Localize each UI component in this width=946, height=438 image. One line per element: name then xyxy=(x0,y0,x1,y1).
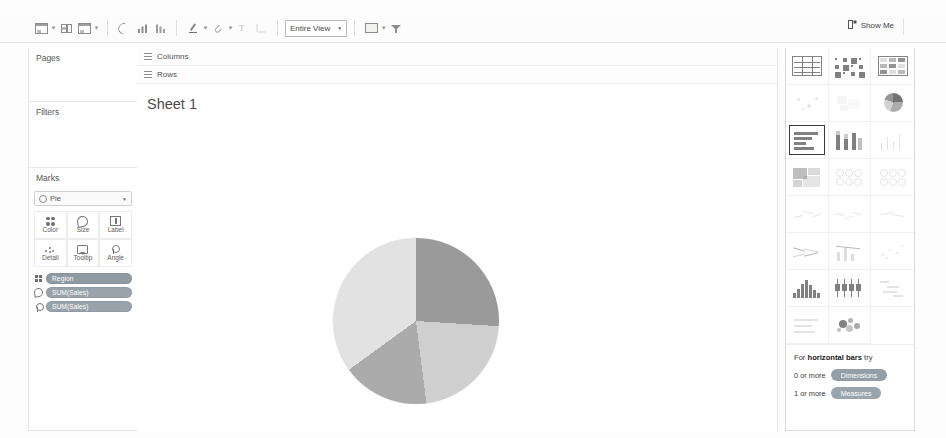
discrete-lines-icon xyxy=(833,203,865,225)
show-me-thumb-horizontal-bars[interactable] xyxy=(786,122,829,159)
symbol-map-icon xyxy=(791,92,823,114)
sort-descending-button[interactable] xyxy=(151,19,169,37)
show-me-thumb-discrete-lines[interactable] xyxy=(829,196,872,233)
show-me-label: Show Me xyxy=(861,21,894,30)
marks-tooltip-button[interactable]: Tooltip xyxy=(67,239,100,267)
show-me-thumb-histogram[interactable] xyxy=(786,270,829,307)
show-me-thumb-side-by-side-bars[interactable] xyxy=(871,122,914,159)
show-me-thumb-symbol-map[interactable] xyxy=(786,85,829,122)
filled-map-icon xyxy=(833,92,865,114)
box-and-whisker-icon xyxy=(833,277,865,299)
show-me-thumb-box-and-whisker[interactable] xyxy=(829,270,872,307)
marks-pill-row[interactable]: SUM(Sales) xyxy=(34,287,132,298)
marks-color-button[interactable]: Color xyxy=(34,211,67,239)
pill-sum-sales-size[interactable]: SUM(Sales) xyxy=(46,287,132,298)
pages-panel: Pages xyxy=(29,48,137,102)
show-me-thumb-dual-combination[interactable] xyxy=(829,233,872,270)
show-me-thumb-filled-map[interactable] xyxy=(829,85,872,122)
marks-size-button[interactable]: Size xyxy=(67,211,100,239)
new-worksheet-button[interactable] xyxy=(32,19,50,37)
marks-color-label: Color xyxy=(43,227,59,234)
marks-panel: Marks Pie ▼ Color Size xyxy=(29,168,137,318)
filters-panel: Filters xyxy=(29,102,137,168)
marks-pill-row[interactable]: Region xyxy=(34,273,132,284)
hint-prefix: For xyxy=(794,353,808,362)
show-mark-labels-button[interactable]: T xyxy=(234,19,252,37)
toolbar-group-edit xyxy=(111,17,173,39)
show-me-thumb-pie-chart[interactable] xyxy=(871,85,914,122)
show-me-thumb-treemap[interactable] xyxy=(786,159,829,196)
highlight-caret-icon[interactable]: ▼ xyxy=(202,25,209,31)
circle-views-icon xyxy=(833,166,865,188)
show-me-thumb-bullet-graph[interactable] xyxy=(786,307,829,344)
dual-lines-icon xyxy=(791,240,823,262)
continuous-lines-icon xyxy=(791,203,823,225)
packed-bubbles-icon xyxy=(833,314,865,336)
chevron-down-icon: ▼ xyxy=(337,25,342,31)
show-me-thumb-continuous-lines[interactable] xyxy=(786,196,829,233)
label-icon xyxy=(110,216,121,226)
show-hide-cards-button[interactable] xyxy=(387,19,405,37)
columns-label: Columns xyxy=(157,52,189,61)
pie-chart-icon xyxy=(877,92,909,114)
fit-select[interactable]: Entire View ▼ xyxy=(285,20,347,37)
sort-ascending-button[interactable] xyxy=(133,19,151,37)
presentation-caret-icon[interactable]: ▼ xyxy=(380,25,387,31)
angle-icon xyxy=(34,302,43,311)
pie-chart-graphic[interactable] xyxy=(333,238,499,404)
tooltip-icon xyxy=(77,245,88,254)
text-table-icon xyxy=(791,55,823,77)
toolbar-divider xyxy=(176,20,177,36)
fit-select-label: Entire View xyxy=(290,24,330,33)
group-members-button[interactable] xyxy=(209,19,227,37)
show-me-button[interactable]: Show Me xyxy=(848,17,894,33)
show-me-thumb-side-by-side-circles[interactable] xyxy=(871,159,914,196)
treemap-icon xyxy=(791,166,823,188)
marks-buttons-grid: Color Size Label Detail xyxy=(34,211,132,267)
marks-label-button[interactable]: Label xyxy=(99,211,132,239)
show-me-thumb-scatter-plot[interactable] xyxy=(871,233,914,270)
toolbar-divider xyxy=(277,20,278,36)
marks-angle-button[interactable]: Angle xyxy=(99,239,132,267)
show-me-thumb-stacked-bars[interactable] xyxy=(829,122,872,159)
viz-area: Columns Rows Sheet 1 xyxy=(137,48,778,431)
new-story-button[interactable] xyxy=(75,19,93,37)
show-me-thumb-continuous-area[interactable] xyxy=(871,196,914,233)
pill-region[interactable]: Region xyxy=(46,273,132,284)
mark-type-select[interactable]: Pie ▼ xyxy=(34,191,132,206)
left-sidebar: Pages Filters Marks Pie ▼ xyxy=(28,48,138,431)
new-dashboard-button[interactable] xyxy=(57,19,75,37)
worksheet-canvas[interactable]: Sheet 1 xyxy=(137,84,777,432)
toolbar-divider xyxy=(903,19,904,35)
rows-shelf[interactable]: Rows xyxy=(137,66,777,84)
pages-dropzone[interactable] xyxy=(29,67,137,101)
pie-chart[interactable] xyxy=(333,238,499,404)
filters-dropzone[interactable] xyxy=(29,121,137,167)
group-caret-icon[interactable]: ▼ xyxy=(227,25,234,31)
show-me-thumb-circle-views[interactable] xyxy=(829,159,872,196)
marks-pill-list: Region SUM(Sales) SUM(Sales) xyxy=(34,273,132,312)
new-worksheet-caret-icon[interactable]: ▼ xyxy=(50,25,57,31)
show-me-thumb-text-table[interactable] xyxy=(786,48,829,85)
new-story-caret-icon[interactable]: ▼ xyxy=(93,25,100,31)
show-me-thumb-packed-bubbles[interactable] xyxy=(829,307,872,344)
size-icon xyxy=(34,288,43,297)
undo-button[interactable] xyxy=(115,19,133,37)
chevron-down-icon: ▼ xyxy=(122,196,127,202)
show-me-requirement: 1 or more Measures xyxy=(794,387,906,399)
marks-pill-row[interactable]: SUM(Sales) xyxy=(34,301,132,312)
marks-detail-button[interactable]: Detail xyxy=(34,239,67,267)
presentation-mode-button[interactable] xyxy=(362,19,380,37)
highlight-button[interactable] xyxy=(184,19,202,37)
pill-sum-sales-angle[interactable]: SUM(Sales) xyxy=(46,301,132,312)
columns-shelf[interactable]: Columns xyxy=(137,48,777,66)
show-me-thumb-heat-map[interactable] xyxy=(829,48,872,85)
show-me-thumb-dual-lines[interactable] xyxy=(786,233,829,270)
horizontal-bars-icon xyxy=(791,129,823,151)
fix-axes-button[interactable] xyxy=(252,19,270,37)
show-me-thumb-gantt[interactable] xyxy=(871,270,914,307)
bullet-graph-icon xyxy=(791,314,823,336)
toolbar-group-sheets: ▼ ▼ xyxy=(28,17,104,39)
show-me-thumb-highlight-table[interactable] xyxy=(871,48,914,85)
rows-icon xyxy=(144,71,152,79)
